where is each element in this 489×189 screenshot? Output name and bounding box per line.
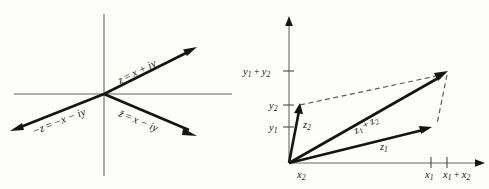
axis-label-y-sum: y1+y2 bbox=[242, 66, 270, 79]
right-diagram-canvas: y1+y2 y2 y1 x2 x1 x1+x2 z2 bbox=[225, 0, 489, 189]
arrowhead-zbar-lower-right bbox=[182, 128, 197, 136]
y2-sub: 2 bbox=[274, 104, 278, 113]
vector-label-z2: z2 bbox=[302, 119, 311, 132]
figure-root: z=x + iy −z=−x − iy z̄=x − iy bbox=[0, 0, 489, 189]
label-x-plus-iy: x + iy bbox=[129, 57, 158, 80]
vector-label-z1: z1 bbox=[379, 141, 388, 154]
y-sum-y2-sub: 2 bbox=[266, 70, 270, 79]
x2-sub: 2 bbox=[302, 173, 306, 182]
vector-addition-diagram: y1+y2 y2 y1 x2 x1 x1+x2 z2 bbox=[225, 0, 489, 189]
z2-sub: 2 bbox=[307, 123, 311, 132]
label-zbar-lower-right: z̄=x − iy bbox=[116, 106, 160, 133]
left-diagram-canvas: z=x + iy −z=−x − iy z̄=x − iy bbox=[0, 0, 245, 189]
svg-text:z̄=x − iy: z̄=x − iy bbox=[116, 106, 160, 133]
axis-label-x1: x1 bbox=[424, 169, 433, 182]
x-sum-x2-sub: 2 bbox=[466, 173, 470, 182]
vector-z2 bbox=[289, 111, 299, 163]
axis-label-y1: y1 bbox=[268, 122, 277, 135]
axis-label-y2: y2 bbox=[268, 100, 278, 113]
x-sum-x1-sub: 1 bbox=[448, 173, 452, 182]
y1-sub: 1 bbox=[274, 126, 278, 135]
vector-label-z1-plus-z2: z1+z2 bbox=[351, 113, 381, 138]
arrowhead-neg-z-lower-left bbox=[10, 123, 24, 131]
dashed-z2-to-sum bbox=[300, 75, 441, 105]
svg-text:z1+z2: z1+z2 bbox=[351, 113, 381, 138]
arrowhead-x-axis bbox=[475, 159, 485, 167]
z1-sub: 1 bbox=[384, 145, 388, 154]
y-sum-plus: + bbox=[254, 66, 260, 77]
dashed-sum-to-z1 bbox=[437, 75, 447, 124]
x-sum-plus: + bbox=[454, 169, 460, 180]
arrowhead-z1 bbox=[419, 126, 432, 134]
arrowhead-y-axis bbox=[285, 16, 293, 26]
axis-label-x2: x2 bbox=[296, 169, 306, 182]
axis-label-x-sum: x1+x2 bbox=[442, 169, 470, 182]
complex-conjugate-diagram: z=x + iy −z=−x − iy z̄=x − iy bbox=[0, 0, 245, 189]
y-sum-y1-sub: 1 bbox=[248, 70, 252, 79]
x1-sub: 1 bbox=[430, 173, 434, 182]
